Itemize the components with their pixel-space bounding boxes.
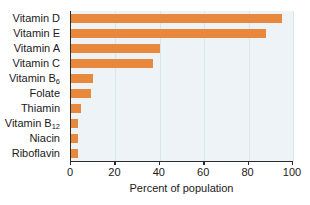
x-tick-100 — [292, 161, 293, 165]
x-tick-0 — [70, 161, 71, 165]
y-axis-category-labels: Vitamin DVitamin EVitamin AVitamin CVita… — [0, 11, 64, 161]
x-tick-label-80: 80 — [241, 166, 253, 178]
bar-vitamin-b12 — [71, 119, 78, 128]
bar-chart: Vitamin DVitamin EVitamin AVitamin CVita… — [0, 0, 310, 205]
x-tick-80 — [248, 161, 249, 165]
x-axis-title: Percent of population — [70, 182, 293, 194]
x-axis-line — [70, 161, 293, 162]
y-axis-label-vitamin-a: Vitamin A — [14, 41, 60, 56]
y-axis-label-riboflavin: Riboflavin — [12, 146, 60, 161]
bar-vitamin-c — [71, 59, 153, 68]
x-tick-label-40: 40 — [153, 166, 165, 178]
bar-vitamin-a — [71, 44, 160, 53]
y-axis-label-niacin: Niacin — [29, 131, 60, 146]
bar-series — [71, 11, 293, 161]
y-axis-label-vitamin-c: Vitamin C — [13, 56, 60, 71]
x-tick-label-0: 0 — [67, 166, 73, 178]
y-axis-label-vitamin-d: Vitamin D — [13, 11, 60, 26]
y-axis-label-thiamin: Thiamin — [21, 101, 60, 116]
bar-riboflavin — [71, 149, 78, 158]
bar-folate — [71, 89, 91, 98]
x-tick-60 — [203, 161, 204, 165]
bar-vitamin-b6 — [71, 74, 93, 83]
x-tick-label-20: 20 — [108, 166, 120, 178]
bar-vitamin-d — [71, 14, 282, 23]
y-axis-label-vitamin-e: Vitamin E — [13, 26, 60, 41]
y-axis-label-vitamin-b12: Vitamin B12 — [5, 116, 60, 131]
x-tick-40 — [159, 161, 160, 165]
bar-niacin — [71, 134, 78, 143]
y-axis-label-vitamin-b6: Vitamin B6 — [9, 71, 60, 86]
bar-vitamin-e — [71, 29, 266, 38]
plot-area — [70, 11, 293, 161]
bar-thiamin — [71, 104, 81, 113]
x-tick-label-60: 60 — [197, 166, 209, 178]
x-tick-20 — [114, 161, 115, 165]
y-axis-label-folate: Folate — [29, 86, 60, 101]
gridline-100 — [293, 11, 294, 161]
x-tick-label-100: 100 — [283, 166, 301, 178]
